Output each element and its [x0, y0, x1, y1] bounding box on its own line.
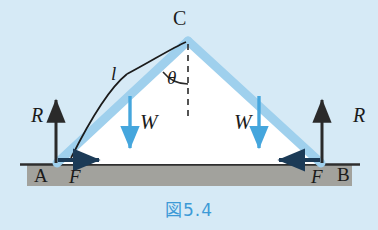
label-base-a: A — [34, 166, 48, 185]
label-base-b: B — [337, 165, 350, 184]
figure-container: C A B R R F F W W θ l 図5.4 — [0, 0, 378, 230]
label-length-l: l — [111, 64, 116, 83]
label-apex-c: C — [173, 8, 186, 28]
label-weight-left: W — [140, 112, 158, 133]
label-reaction-right: R — [353, 105, 365, 125]
label-reaction-left: R — [31, 105, 43, 125]
frame-interior — [56, 40, 322, 164]
label-friction-right: F — [311, 167, 323, 186]
label-angle-theta: θ — [167, 68, 176, 87]
label-weight-right: W — [234, 112, 252, 133]
label-friction-left: F — [69, 167, 81, 186]
figure-caption: 図5.4 — [0, 196, 378, 221]
